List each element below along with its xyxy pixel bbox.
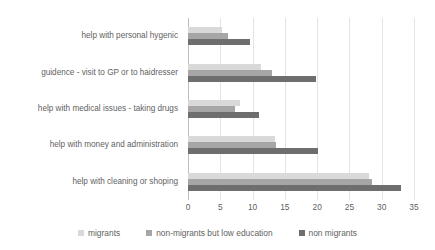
legend-swatch-icon: [78, 230, 84, 236]
bar: [188, 39, 250, 45]
x-tick-label: 5: [208, 201, 232, 213]
gridline-35: [414, 18, 415, 200]
x-tick-label: 0: [176, 201, 200, 213]
legend-label: migrants: [88, 228, 120, 238]
x-tick-label: 10: [241, 201, 265, 213]
legend-label: non migrants: [309, 228, 357, 238]
legend-label: non-migrants but low education: [156, 228, 272, 238]
x-tick-label: 20: [305, 201, 329, 213]
x-tick-label: 35: [402, 201, 426, 213]
gridline-30: [382, 18, 383, 200]
legend-item[interactable]: migrants: [78, 228, 120, 238]
x-tick-label: 25: [337, 201, 361, 213]
category-axis: help with personal hygenicguidence - vis…: [0, 18, 184, 200]
value-axis: 05101520253035: [188, 201, 414, 215]
category-label: help with personal hygenic: [0, 31, 178, 41]
bar-chart: help with personal hygenicguidence - vis…: [0, 0, 435, 250]
category-label: help with money and administration: [0, 140, 178, 150]
bar: [188, 148, 318, 154]
legend-item[interactable]: non migrants: [299, 228, 357, 238]
plot-area: [188, 18, 414, 200]
category-label: guidence - visit to GP or to haidresser: [0, 68, 178, 78]
x-tick-label: 15: [273, 201, 297, 213]
category-label: help with cleaning or shoping: [0, 177, 178, 187]
legend-swatch-icon: [146, 230, 152, 236]
legend-swatch-icon: [299, 230, 305, 236]
legend-item[interactable]: non-migrants but low education: [146, 228, 272, 238]
bar: [188, 185, 401, 191]
category-label: help with medical issues - taking drugs: [0, 104, 178, 114]
x-tick-label: 30: [370, 201, 394, 213]
chart-legend: migrantsnon-migrants but low educationno…: [0, 224, 435, 242]
bar: [188, 76, 316, 82]
bar: [188, 112, 259, 118]
